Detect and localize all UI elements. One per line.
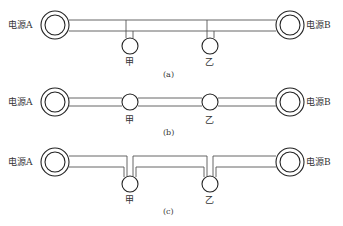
panel-c-lines bbox=[69, 156, 276, 177]
source-a-inner-icon bbox=[45, 152, 65, 172]
load-jia-label: 甲 bbox=[125, 115, 134, 125]
load-jia-icon bbox=[122, 176, 138, 192]
panel-c-caption: (c) bbox=[163, 207, 174, 217]
load-jia-icon bbox=[122, 38, 138, 54]
load-jia-icon bbox=[122, 94, 138, 110]
load-yi-label: 乙 bbox=[205, 57, 214, 67]
panel-a-caption: (a) bbox=[163, 70, 174, 80]
load-jia-label: 甲 bbox=[125, 195, 134, 205]
source-a-label: 电源A bbox=[8, 157, 33, 167]
panel-b-caption: (b) bbox=[163, 128, 174, 138]
panel-a-lines bbox=[69, 20, 276, 38]
source-b-inner-icon bbox=[280, 15, 300, 35]
load-yi-icon bbox=[202, 176, 218, 192]
source-a-label: 电源A bbox=[8, 20, 33, 30]
source-a-inner-icon bbox=[45, 92, 65, 112]
load-jia-label: 甲 bbox=[125, 57, 134, 67]
source-a-label: 电源A bbox=[8, 97, 33, 107]
source-b-inner-icon bbox=[280, 152, 300, 172]
panel-b-lines bbox=[69, 98, 276, 106]
load-yi-label: 乙 bbox=[205, 195, 214, 205]
load-yi-icon bbox=[202, 94, 218, 110]
source-b-label: 电源B bbox=[306, 20, 331, 30]
load-yi-icon bbox=[202, 38, 218, 54]
source-b-inner-icon bbox=[280, 92, 300, 112]
source-b-label: 电源B bbox=[306, 157, 331, 167]
load-yi-label: 乙 bbox=[205, 115, 214, 125]
diagram-canvas bbox=[0, 0, 343, 226]
source-a-inner-icon bbox=[45, 15, 65, 35]
source-b-label: 电源B bbox=[306, 97, 331, 107]
